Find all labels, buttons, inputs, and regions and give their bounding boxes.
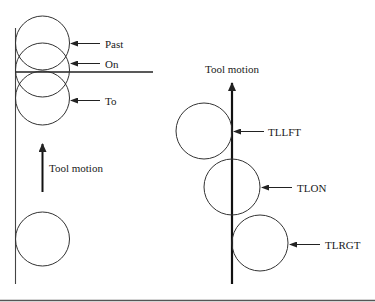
label-tlon: TLON: [297, 182, 326, 194]
tool-position-diagram: Past On To Tool motion Tool motion TLLFT…: [0, 0, 375, 302]
label-tool-motion-right: Tool motion: [205, 63, 259, 75]
tool-circle-start: [16, 212, 70, 266]
label-past: Past: [105, 38, 123, 50]
label-tllft: TLLFT: [268, 126, 301, 138]
left-panel: Past On To Tool motion: [15, 16, 153, 284]
tool-circle-to: [16, 71, 70, 125]
tool-circle-tllft: [176, 103, 232, 159]
right-panel: Tool motion TLLFT TLON TLRGT: [176, 63, 361, 284]
label-to: To: [105, 95, 117, 107]
diagram-canvas: Past On To Tool motion Tool motion TLLFT…: [0, 0, 375, 302]
label-on: On: [105, 58, 119, 70]
tool-circle-tlrgt: [232, 215, 288, 271]
label-tlrgt: TLRGT: [325, 239, 361, 251]
label-tool-motion-left: Tool motion: [49, 162, 103, 174]
